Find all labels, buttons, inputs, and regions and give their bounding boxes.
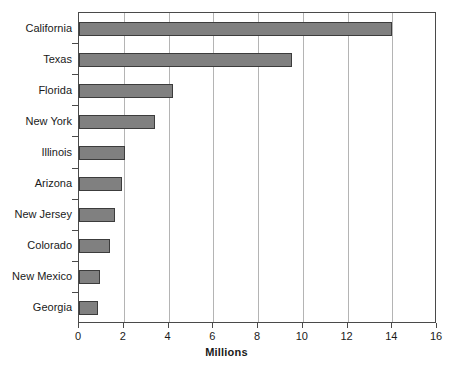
x-axis-tick-label-4: 4 [148, 330, 188, 343]
category-label-california: California [0, 22, 72, 34]
x-axis-title: Millions [0, 346, 453, 358]
category-label-new-york: New York [0, 115, 72, 127]
bar-colorado [79, 239, 110, 253]
y-axis-tick-5 [72, 168, 78, 169]
y-axis-tick-7 [72, 230, 78, 231]
bar-illinois [79, 146, 125, 160]
x-axis-tick-label-14: 14 [371, 330, 411, 343]
y-axis-tick-1 [72, 43, 78, 44]
gridline-12 [348, 13, 349, 322]
x-axis-tick-2 [123, 323, 124, 328]
bar-new-mexico [79, 270, 100, 284]
x-axis-tick-8 [257, 323, 258, 328]
category-label-georgia: Georgia [0, 301, 72, 313]
gridline-14 [392, 13, 393, 322]
x-axis-tick-14 [391, 323, 392, 328]
y-axis-tick-2 [72, 74, 78, 75]
category-label-texas: Texas [0, 53, 72, 65]
x-axis-tick-label-6: 6 [192, 330, 232, 343]
x-axis-tick-label-0: 0 [58, 330, 98, 343]
x-axis-tick-label-12: 12 [327, 330, 367, 343]
y-axis-tick-9 [72, 292, 78, 293]
category-label-new-mexico: New Mexico [0, 270, 72, 282]
x-axis-tick-4 [168, 323, 169, 328]
plot-area [78, 12, 436, 323]
bar-arizona [79, 177, 122, 191]
gridline-10 [303, 13, 304, 322]
bar-new-jersey [79, 208, 115, 222]
x-axis-tick-6 [212, 323, 213, 328]
y-axis-tick-3 [72, 105, 78, 106]
category-label-illinois: Illinois [0, 146, 72, 158]
y-axis-tick-8 [72, 261, 78, 262]
x-axis-tick-0 [78, 323, 79, 328]
x-axis-tick-label-8: 8 [237, 330, 277, 343]
y-axis-tick-6 [72, 199, 78, 200]
x-axis-tick-12 [347, 323, 348, 328]
category-label-florida: Florida [0, 84, 72, 96]
bar-california [79, 22, 392, 36]
x-axis-tick-label-2: 2 [103, 330, 143, 343]
x-axis-tick-16 [436, 323, 437, 328]
category-label-colorado: Colorado [0, 239, 72, 251]
bar-new-york [79, 115, 155, 129]
x-axis-tick-label-16: 16 [416, 330, 453, 343]
y-axis-tick-4 [72, 136, 78, 137]
x-axis-tick-label-10: 10 [282, 330, 322, 343]
x-axis-tick-10 [302, 323, 303, 328]
bar-florida [79, 84, 173, 98]
bar-georgia [79, 301, 98, 315]
category-label-arizona: Arizona [0, 177, 72, 189]
bar-chart: CaliforniaTexasFloridaNew YorkIllinoisAr… [0, 0, 453, 365]
category-label-new-jersey: New Jersey [0, 208, 72, 220]
bar-texas [79, 53, 292, 67]
